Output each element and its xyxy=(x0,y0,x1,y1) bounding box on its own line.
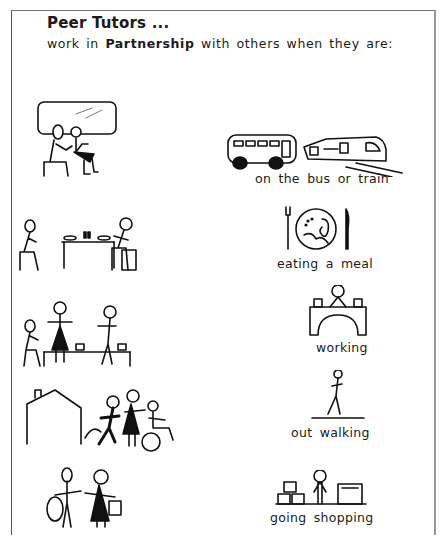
people-walking-near-house-icon xyxy=(25,388,175,452)
subtitle-text-post: with others when they are: xyxy=(195,36,394,51)
activity-label: working xyxy=(316,340,368,355)
shop-counter-icon xyxy=(274,470,368,508)
activity-label: going shopping xyxy=(270,510,373,525)
activity-label: eating a meal xyxy=(277,256,373,271)
page-title: Peer Tutors ... xyxy=(47,14,169,32)
people-eating-at-table-icon xyxy=(18,216,138,274)
page-subtitle: work in Partnership with others when the… xyxy=(47,36,393,51)
activity-label: out walking xyxy=(291,425,370,440)
people-sitting-on-train-icon xyxy=(36,100,118,180)
activity-label: on the bus or train xyxy=(255,171,389,186)
person-at-desk-icon xyxy=(308,285,368,339)
subtitle-text-pre: work in xyxy=(47,36,105,51)
person-walking-icon xyxy=(310,370,366,420)
subtitle-bold-word: Partnership xyxy=(105,36,194,51)
people-with-shopping-bags-icon xyxy=(45,467,125,529)
people-working-at-table-icon xyxy=(22,300,134,368)
plate-fork-knife-icon xyxy=(282,205,356,251)
